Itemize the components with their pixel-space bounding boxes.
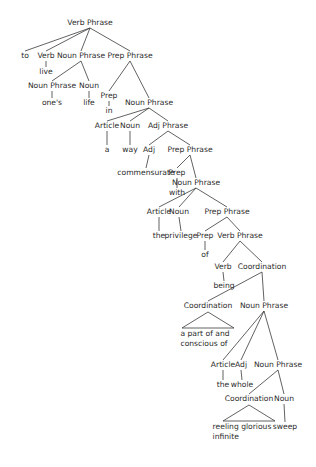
tree-node-label: Article [147,207,171,217]
tree-edge [223,241,240,262]
tree-node-label: Noun Phrase [240,301,288,311]
node-text: with [169,188,185,197]
node-text: Coordination [225,394,274,403]
collapsed-constituent-triangle [182,312,234,328]
node-text: Prep Phrase [204,207,249,216]
node-text: Prep [169,168,186,177]
node-text: Prep Phrase [167,145,212,154]
tree-node-label: Noun Phrase [254,360,302,370]
node-text: privilege [165,231,198,240]
tree-node-label: Noun Phrase [28,81,76,91]
node-text: Noun Phrase [28,81,76,90]
node-text: Noun [169,207,189,216]
tree-edge [81,28,90,51]
node-text: Verb Phrase [67,18,112,27]
node-text: sweep [273,422,297,431]
tree-edge [241,311,264,360]
tree-leaf-word: a [105,145,110,155]
node-text: a part of and [180,329,229,338]
tree-edge [284,404,285,422]
tree-node-label: Noun [120,121,140,131]
tree-edge [81,61,89,81]
node-text: Noun [79,81,99,90]
node-text: Coordination [238,262,287,271]
tree-edge [241,370,242,380]
node-text: Article [147,207,171,216]
tree-leaf-word: live [39,67,52,77]
tree-node-label: Noun [169,207,189,217]
tree-edge [179,217,181,231]
tree-node-label: Coordination [225,394,274,404]
tree-leaf-word: being [213,281,234,291]
node-text: Coordination [184,301,233,310]
tree-edge [264,311,278,360]
node-text: commensurate [117,168,174,177]
tree-edge [168,131,190,145]
node-text: way [122,145,137,154]
tree-node-label: Coordination [184,301,233,311]
tree-edge [52,61,81,81]
node-text: Noun Phrase [240,301,288,310]
tree-node-label: Prep [197,231,214,241]
tree-edge [249,370,278,394]
node-text: Verb [37,51,54,60]
tree-edge [177,155,190,168]
node-text: one's [42,98,62,107]
tree-edge [109,61,130,91]
tree-leaf-word: one's [42,98,62,108]
tree-edge [130,108,149,121]
tree-edge [90,28,130,51]
tree-node-label: Verb Phrase [217,231,262,241]
tree-edge [46,28,90,51]
tree-leaf-word: sweep [273,422,297,432]
tree-node-label: Noun Phrase [57,51,105,61]
node-text: Noun Phrase [57,51,105,60]
tree-edge [190,155,196,178]
tree-leaf-word: reeling gloriousinfinite [213,422,272,442]
node-text: reeling glorious [213,422,272,431]
tree-edge [240,241,262,262]
node-text: a [105,145,110,154]
tree-node-label: Prep Phrase [107,51,152,61]
tree-edge [227,217,240,231]
node-text: the [153,231,165,240]
node-text: whole [231,380,253,389]
tree-edge [278,370,284,394]
tree-node-label: Prep Phrase [204,207,249,217]
node-text: in [106,106,113,115]
tree-edge [130,61,149,98]
node-text: Noun Phrase [254,360,302,369]
node-text-line2: infinite [213,432,239,441]
node-text: Noun Phrase [172,178,220,187]
tree-node-label: Adj [143,145,155,155]
tree-node-label: Noun [274,394,294,404]
node-text: life [83,98,95,107]
node-text: Adj [235,360,247,369]
node-text: Verb [214,262,231,271]
node-text: live [39,67,52,76]
tree-leaf-word: a part of andconscious of [180,329,229,349]
tree-leaf-word: the [153,231,165,241]
node-text: being [213,281,234,290]
tree-leaf-word: of [201,250,208,260]
tree-node-label: Article [211,360,235,370]
tree-node-label: Adj Phrase [148,121,188,131]
node-text: of [201,250,208,259]
tree-leaf-word: life [83,98,95,108]
node-text: Noun Phrase [125,98,173,107]
tree-edge [223,272,224,281]
tree-edge [25,28,90,51]
tree-node-label: Coordination [238,262,287,272]
node-text: Noun [120,121,140,130]
tree-leaf-word: in [106,106,113,116]
node-text: Adj [143,145,155,154]
tree-leaf-word: with [169,188,185,198]
tree-edge [205,217,227,231]
node-text: Article [95,121,119,130]
tree-leaf-word: to [21,51,29,61]
tree-edge [146,155,149,168]
tree-node-label: Verb [37,51,54,61]
node-text: Prep [101,91,118,100]
tree-node-label: Article [95,121,119,131]
tree-leaf-word: commensurate [117,168,174,178]
